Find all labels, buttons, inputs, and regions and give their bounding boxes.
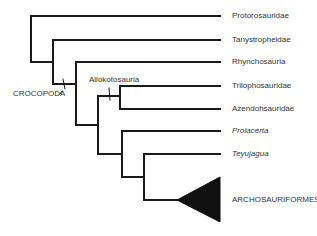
taxon-prolacerta: Prolacerta <box>232 126 268 136</box>
taxon-archosauriformes: ARCHOSAURIFORMES <box>232 195 317 205</box>
allokotosauria-tick <box>109 88 110 100</box>
taxon-azendohsauridae: Azendohsauridae <box>232 104 294 114</box>
branch-allokotosauria <box>98 96 120 154</box>
clade-label-allokotosauria: Allokotosauria <box>89 75 139 85</box>
taxon-trilophosauridae: Trilophosauridae <box>232 81 291 91</box>
taxon-rhynchosauria: Rhynchosauria <box>232 57 285 67</box>
taxon-protorosauridae: Protorosauridae <box>232 11 289 21</box>
branch-trilophosauridae <box>120 86 220 109</box>
taxon-tanystropheidae: Tanystropheidae <box>232 35 291 45</box>
branch-teyujagua-node <box>122 154 144 177</box>
archosauriformes-triangle <box>177 177 220 222</box>
taxon-teyujagua: Teyujagua <box>232 149 269 159</box>
clade-label-crocopoda: CROCOPODA <box>13 89 65 99</box>
branch-prolacerta <box>98 131 220 154</box>
